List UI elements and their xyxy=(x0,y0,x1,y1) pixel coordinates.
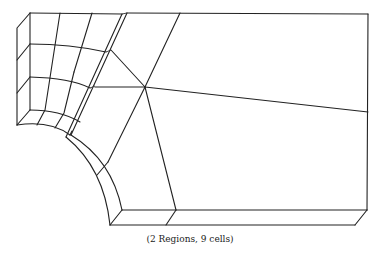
region-plate xyxy=(66,13,368,225)
region-left-block xyxy=(17,13,122,135)
figure-caption: (2 Regions, 9 cells) xyxy=(0,234,380,244)
mesh-diagram xyxy=(0,0,380,258)
region-interface xyxy=(66,13,127,137)
